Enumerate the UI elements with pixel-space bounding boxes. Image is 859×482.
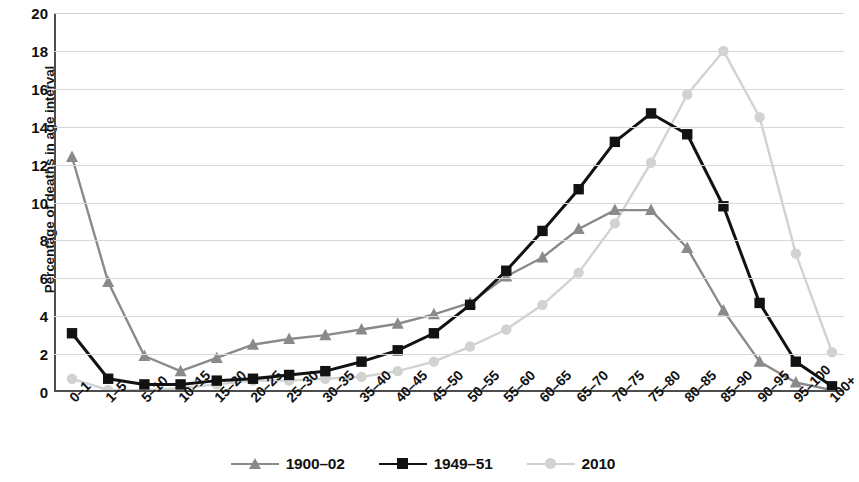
- legend-item: 1949–51: [379, 455, 493, 473]
- data-point: [356, 356, 366, 366]
- data-point: [573, 184, 583, 194]
- square-glyph: [397, 458, 408, 469]
- data-point: [682, 89, 692, 99]
- square-marker: [379, 457, 427, 471]
- series-1949-51: [67, 108, 837, 391]
- legend-item: 2010: [527, 455, 616, 473]
- data-point: [573, 223, 585, 235]
- data-point: [501, 324, 511, 334]
- y-tick-label: 10: [16, 196, 48, 211]
- y-axis-tick-labels: 02468101214161820: [0, 0, 48, 482]
- data-point: [717, 304, 729, 316]
- legend-marker: [545, 458, 556, 469]
- data-point: [610, 218, 620, 228]
- circle-marker: [527, 457, 575, 471]
- data-point: [754, 112, 764, 122]
- data-point: [67, 328, 77, 338]
- data-point: [465, 341, 475, 351]
- y-tick-label: 4: [16, 309, 48, 324]
- legend-marker: [249, 458, 261, 469]
- y-tick-label: 14: [16, 120, 48, 135]
- gridline: [54, 127, 844, 128]
- data-point: [827, 347, 837, 357]
- gridline: [54, 89, 844, 90]
- circle-glyph: [545, 458, 556, 469]
- legend-label: 2010: [582, 455, 616, 473]
- gridline: [54, 13, 844, 14]
- triangle-marker: [231, 457, 279, 471]
- data-point: [573, 267, 583, 277]
- y-tick-label: 16: [16, 82, 48, 97]
- data-point: [791, 248, 801, 258]
- data-point: [248, 374, 258, 384]
- data-point: [791, 356, 801, 366]
- data-point: [610, 137, 620, 147]
- gridline: [54, 165, 844, 166]
- gridline: [54, 51, 844, 52]
- triangle-glyph: [249, 458, 261, 469]
- data-point: [429, 328, 439, 338]
- data-point: [429, 356, 439, 366]
- legend-marker: [397, 458, 408, 469]
- data-point: [501, 266, 511, 276]
- data-point: [66, 151, 78, 163]
- y-tick-label: 8: [16, 233, 48, 248]
- y-tick-label: 6: [16, 271, 48, 286]
- gridline: [54, 203, 844, 204]
- data-point: [646, 108, 656, 118]
- series-line: [72, 51, 832, 390]
- x-axis-tick-labels: 0–11–55–1010–1515–2020–2525–3030–3535–40…: [54, 394, 844, 454]
- legend-item: 1900–02: [231, 455, 345, 473]
- gridline: [54, 316, 844, 317]
- data-point: [537, 300, 547, 310]
- legend-label: 1949–51: [434, 455, 493, 473]
- y-tick-label: 2: [16, 347, 48, 362]
- legend-label: 1900–02: [286, 455, 345, 473]
- chart-legend: 1900–021949–512010: [0, 455, 846, 473]
- y-tick-label: 0: [16, 385, 48, 400]
- data-point: [646, 158, 656, 168]
- y-tick-label: 12: [16, 158, 48, 173]
- data-point: [67, 374, 77, 384]
- gridline: [54, 240, 844, 241]
- series-line: [72, 113, 832, 386]
- data-point: [284, 370, 294, 380]
- gridline: [54, 354, 844, 355]
- data-point: [754, 298, 764, 308]
- series-2010: [67, 46, 837, 392]
- plot-area: [54, 13, 844, 392]
- data-point: [320, 366, 330, 376]
- series-1900-02: [66, 151, 838, 392]
- gridline: [54, 278, 844, 279]
- data-point: [537, 226, 547, 236]
- data-point: [356, 372, 366, 382]
- data-point: [138, 349, 150, 361]
- y-tick-label: 20: [16, 6, 48, 21]
- data-point: [682, 129, 692, 139]
- y-tick-label: 18: [16, 44, 48, 59]
- data-point: [465, 300, 475, 310]
- data-point: [393, 366, 403, 376]
